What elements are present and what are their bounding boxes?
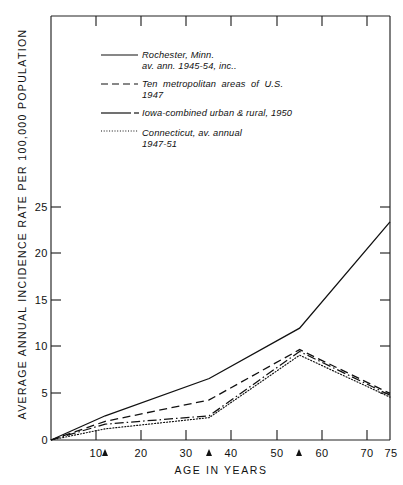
chart-figure: AVERAGE ANNUAL INCIDENCE RATE PER 100,00…	[0, 0, 403, 485]
x-axis-ticks	[96, 430, 367, 440]
age-arrow-55-icon	[296, 449, 302, 456]
age-arrow-35-icon	[206, 449, 212, 456]
y-axis-ticks	[51, 207, 61, 393]
axis-arrow-markers	[102, 449, 302, 456]
series-line-0	[51, 222, 390, 440]
y-axis-ticks-right	[380, 207, 390, 393]
chart-canvas	[0, 0, 403, 485]
series-line-3	[51, 355, 390, 440]
series-line-1	[51, 350, 390, 440]
x-axis-ticks-top	[96, 16, 367, 26]
data-series-layer	[51, 222, 390, 440]
legend-swatches	[101, 55, 139, 131]
age-arrow-12-icon	[102, 449, 108, 456]
series-line-2	[51, 351, 390, 440]
